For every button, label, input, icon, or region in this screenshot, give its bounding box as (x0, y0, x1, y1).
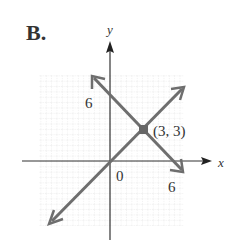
panel-label: B. (26, 20, 46, 45)
x-axis-label: x (217, 155, 224, 170)
intersection-point (139, 125, 148, 134)
point-label: (3, 3) (153, 123, 186, 140)
origin-label: 0 (116, 168, 124, 184)
y-axis-label: y (105, 22, 113, 37)
coordinate-plane: B. y x 6 0 6 (3, 3) (0, 0, 236, 242)
x-tick-6: 6 (168, 179, 176, 195)
y-tick-6: 6 (85, 95, 93, 111)
